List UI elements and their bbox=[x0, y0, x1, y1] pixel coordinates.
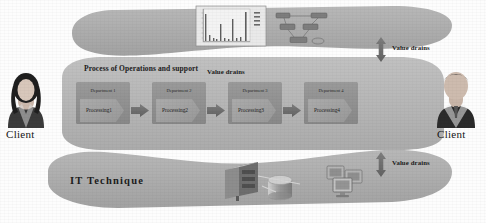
client-left-label: Client bbox=[6, 128, 35, 140]
process-block-4-processing: Processing4 bbox=[306, 107, 348, 113]
process-block-1-department: Department 1 bbox=[76, 88, 130, 93]
middle-band-title: Process of Operations and support bbox=[84, 64, 198, 73]
analytics-chart bbox=[196, 6, 266, 46]
client-left-avatar bbox=[8, 73, 44, 128]
process-block-1-processing: Processing1 bbox=[78, 107, 120, 113]
value-drains-middle-label: Value drains bbox=[207, 68, 245, 75]
client-right-label: Client bbox=[437, 128, 466, 140]
process-block-3-department: Department 3 bbox=[228, 88, 282, 93]
bottom-band-title: IT Technique bbox=[70, 175, 144, 186]
process-block-3-processing: Processing3 bbox=[230, 107, 272, 113]
diagram-canvas: Process of Operations and support IT Tec… bbox=[0, 0, 486, 223]
process-block-4-department: Department 4 bbox=[304, 88, 358, 93]
process-block-2-department: Department 2 bbox=[152, 88, 206, 93]
value-drains-top-label: Value drains bbox=[392, 44, 430, 51]
process-block-2-processing: Processing2 bbox=[154, 107, 196, 113]
value-drains-bottom-label: Value drains bbox=[392, 159, 430, 166]
